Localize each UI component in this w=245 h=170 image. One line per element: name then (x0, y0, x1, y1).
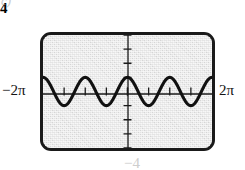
window-ymin-label: −4 (124, 155, 140, 170)
plot-canvas (43, 35, 212, 148)
axes-group (43, 35, 212, 148)
window-xmin-label: −2π (2, 82, 26, 99)
graph-figure: c) 4 −2π 2π −4 (0, 0, 245, 170)
figure-part-label: c) (1, 0, 11, 9)
calculator-viewing-window (40, 32, 215, 151)
window-ymax-label: 4 (0, 0, 245, 17)
window-xmax-label: 2π (219, 82, 234, 99)
